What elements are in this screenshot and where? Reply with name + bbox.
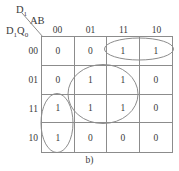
row-header-2: 11 bbox=[18, 95, 38, 124]
column-header-3: 10 bbox=[140, 25, 173, 35]
kmap-cell-r3c1: 0 bbox=[75, 123, 108, 152]
kmap-cell-r0c1: 0 bbox=[75, 37, 108, 66]
row-header-1: 01 bbox=[18, 65, 38, 94]
kmap-cell-r1c3: 0 bbox=[140, 66, 173, 95]
figure-caption: b) bbox=[0, 155, 179, 165]
kmap-cell-r1c2: 1 bbox=[107, 66, 140, 95]
kmap-cell-r2c3: 0 bbox=[140, 95, 173, 124]
kmap-cell-r0c2: 1 bbox=[107, 37, 140, 66]
column-header-2: 11 bbox=[107, 25, 140, 35]
top-variable-label: D1 bbox=[16, 5, 27, 18]
kmap-cell-r0c0: 0 bbox=[42, 37, 75, 66]
kmap-cell-r3c2: 0 bbox=[107, 123, 140, 152]
kmap-cell-r1c1: 1 bbox=[75, 66, 108, 95]
kmap-cell-r0c3: 1 bbox=[140, 37, 173, 66]
kmap-cell-r3c3: 0 bbox=[140, 123, 173, 152]
kmap-grid: 0 0 1 1 0 1 1 0 1 1 1 0 1 0 0 0 bbox=[41, 36, 173, 153]
row-header-0: 00 bbox=[18, 36, 38, 65]
kmap-cell-r2c0: 1 bbox=[42, 95, 75, 124]
kmap-cell-r2c2: 1 bbox=[107, 95, 140, 124]
kmap-cell-r3c0: 1 bbox=[42, 123, 75, 152]
kmap-cell-r2c1: 1 bbox=[75, 95, 108, 124]
column-header-1: 01 bbox=[74, 25, 107, 35]
column-header-0: 00 bbox=[41, 25, 74, 35]
karnaugh-map-figure: D1 AB D1Q0 00 01 11 10 00 01 11 10 0 0 1… bbox=[0, 0, 179, 171]
kmap-cell-r1c0: 0 bbox=[42, 66, 75, 95]
row-header-3: 10 bbox=[18, 124, 38, 153]
